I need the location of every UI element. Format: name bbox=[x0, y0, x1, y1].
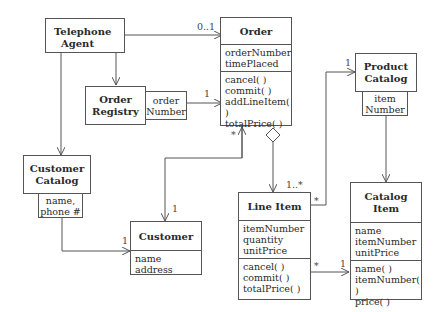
operation: addLineItem( ) bbox=[225, 96, 287, 118]
operation: itemNumber( ) bbox=[355, 274, 417, 296]
class-title: Line Item bbox=[239, 193, 310, 220]
operation: cancel( ) bbox=[243, 261, 306, 272]
qualifier-order-number: order Number bbox=[145, 91, 187, 120]
attributes-section: name itemNumber unitPrice bbox=[351, 222, 421, 260]
operation: commit( ) bbox=[225, 85, 287, 96]
class-order-registry[interactable]: Order Registry bbox=[85, 86, 146, 125]
qualifier-text: Number bbox=[146, 106, 186, 117]
operations-section: cancel( ) commit( ) totalPrice( ) bbox=[239, 258, 310, 296]
class-title: Customer bbox=[24, 163, 90, 175]
class-customer[interactable]: Customer name address bbox=[130, 221, 202, 275]
class-title: Product bbox=[356, 61, 416, 73]
multiplicity-label: 1 bbox=[172, 204, 178, 214]
class-line-item[interactable]: Line Item itemNumber quantity unitPrice … bbox=[238, 192, 311, 300]
multiplicity-label: 1 bbox=[122, 236, 128, 246]
class-title: Catalog bbox=[351, 191, 421, 203]
operation: totalPrice( ) bbox=[243, 283, 306, 294]
operation: commit( ) bbox=[243, 272, 306, 283]
multiplicity-label: 1 bbox=[204, 89, 210, 99]
attributes-section: name address bbox=[131, 250, 201, 277]
multiplicity-label: 1..* bbox=[286, 180, 303, 190]
multiplicity-label: * bbox=[314, 261, 319, 271]
operation: price( ) bbox=[355, 296, 417, 307]
qualifier-text: Number bbox=[363, 104, 407, 115]
multiplicity-label: * bbox=[314, 196, 319, 206]
attribute: unitPrice bbox=[243, 245, 306, 256]
attributes-section: orderNumber timePlaced bbox=[221, 44, 291, 71]
attributes-section: itemNumber quantity unitPrice bbox=[239, 220, 310, 258]
qualifier-text: phone # bbox=[39, 206, 82, 217]
attribute: itemNumber bbox=[355, 236, 417, 247]
class-title: Catalog bbox=[356, 73, 416, 85]
multiplicity-label: 1 bbox=[340, 259, 346, 269]
class-title: Order bbox=[86, 94, 145, 106]
class-product-catalog[interactable]: Product Catalog bbox=[355, 53, 417, 92]
operations-section: name( ) itemNumber( ) price( ) bbox=[351, 260, 421, 309]
operation: cancel( ) bbox=[225, 74, 287, 85]
attribute: quantity bbox=[243, 234, 306, 245]
qualifier-text: order bbox=[146, 95, 186, 106]
attribute: timePlaced bbox=[225, 58, 287, 69]
class-title: Customer bbox=[131, 222, 201, 250]
attribute: name bbox=[135, 253, 197, 264]
multiplicity-label: 1 bbox=[345, 58, 351, 68]
operations-section: cancel( ) commit( ) addLineItem( ) total… bbox=[221, 71, 291, 131]
multiplicity-label: 0..1 bbox=[197, 22, 215, 32]
class-title: Order bbox=[221, 18, 291, 44]
class-title: Catalog bbox=[24, 175, 90, 187]
class-title: Telephone bbox=[54, 26, 124, 38]
operation: totalPrice( ) bbox=[225, 118, 287, 129]
attribute: address bbox=[135, 264, 197, 275]
multiplicity-label: * bbox=[231, 130, 236, 140]
attribute: itemNumber bbox=[243, 223, 306, 234]
class-telephone-agent[interactable]: Telephone Agent bbox=[45, 18, 125, 53]
operation: name( ) bbox=[355, 263, 417, 274]
attribute: unitPrice bbox=[355, 247, 417, 258]
qualifier-item-number: item Number bbox=[362, 91, 408, 116]
attribute: name bbox=[355, 225, 417, 236]
class-title: Item bbox=[351, 203, 421, 215]
qualifier-text: name, bbox=[39, 195, 82, 206]
class-order[interactable]: Order orderNumber timePlaced cancel( ) c… bbox=[220, 17, 292, 126]
qualifier-name-phone: name, phone # bbox=[38, 193, 83, 218]
class-title: Registry bbox=[86, 106, 145, 118]
class-title: Agent bbox=[54, 38, 124, 50]
qualifier-text: item bbox=[363, 93, 407, 104]
class-catalog-item[interactable]: Catalog Item name itemNumber unitPrice n… bbox=[350, 182, 422, 300]
attribute: orderNumber bbox=[225, 47, 287, 58]
class-customer-catalog[interactable]: Customer Catalog bbox=[23, 155, 91, 194]
